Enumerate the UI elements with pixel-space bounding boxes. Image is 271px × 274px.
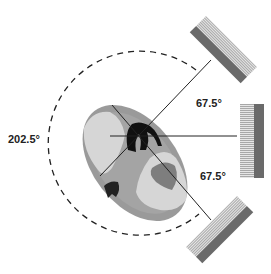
beam-diagram <box>0 0 271 274</box>
arc-angle-label: 202.5° <box>8 133 40 145</box>
bottom-right-detector <box>186 196 253 263</box>
patient-cross-section <box>61 85 208 241</box>
top-right-detector <box>190 16 257 83</box>
lower-angle-label: 67.5° <box>200 170 226 182</box>
right-detector <box>240 104 264 178</box>
upper-angle-label: 67.5° <box>196 97 222 109</box>
